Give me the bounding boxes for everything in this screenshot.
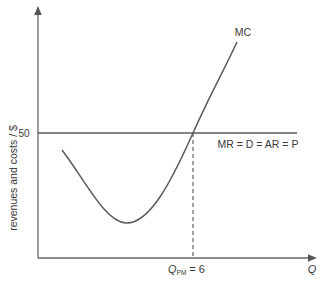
qpm-label: QPM = 6 xyxy=(168,263,205,276)
chart-canvas: 50 revenues and costs / $ MC MR = D = AR… xyxy=(0,0,323,283)
qpm-rest: = 6 xyxy=(186,263,205,275)
qpm-sub: PM xyxy=(177,269,187,276)
x-axis-label: Q xyxy=(308,263,317,275)
y-tick-50: 50 xyxy=(18,128,30,139)
y-axis-label: revenues and costs / $ xyxy=(7,125,19,231)
mr-label: MR = D = AR = P xyxy=(218,138,299,150)
mc-label: MC xyxy=(235,26,252,38)
